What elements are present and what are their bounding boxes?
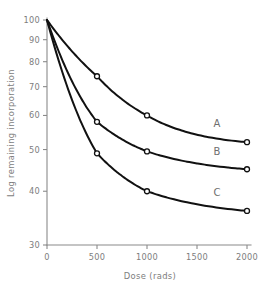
x-tick-label: 1500 [186, 252, 208, 262]
y-tick-label: 60 [29, 110, 40, 120]
x-tick-label: 1000 [136, 252, 158, 262]
x-axis-ticks: 0500100015002000 [44, 245, 258, 262]
decay-curve-chart: 30405060708090100 0500100015002000 ABC D… [0, 0, 271, 287]
x-axis-group: 0500100015002000 [44, 245, 258, 262]
y-tick-label: 90 [29, 35, 40, 45]
data-point-marker [145, 113, 150, 118]
data-point-marker [145, 189, 150, 194]
y-tick-label: 40 [29, 186, 40, 196]
curve-label-a: A [213, 118, 220, 129]
y-axis-ticks: 30405060708090100 [23, 15, 47, 250]
data-point-marker [245, 167, 250, 172]
data-point-marker [95, 151, 100, 156]
curve-label-b: B [213, 146, 220, 157]
data-point-marker [95, 74, 100, 79]
y-tick-label: 30 [29, 240, 40, 250]
y-tick-label: 100 [23, 15, 40, 25]
x-tick-label: 500 [89, 252, 106, 262]
x-tick-label: 2000 [236, 252, 258, 262]
data-point-marker [95, 119, 100, 124]
data-point-marker [145, 149, 150, 154]
data-point-marker [245, 140, 250, 145]
chart-container: 30405060708090100 0500100015002000 ABC D… [0, 0, 271, 287]
x-tick-label: 0 [44, 252, 50, 262]
y-axis-group: 30405060708090100 [23, 15, 47, 250]
data-point-marker [245, 208, 250, 213]
curve-label-c: C [213, 187, 220, 198]
x-axis-title: Dose (rads) [124, 271, 176, 281]
y-tick-label: 80 [29, 57, 40, 67]
y-tick-label: 70 [29, 82, 40, 92]
y-axis-title: Log remaining incorporation [6, 69, 16, 197]
series-labels: ABC [213, 118, 220, 198]
y-tick-label: 50 [29, 145, 40, 155]
